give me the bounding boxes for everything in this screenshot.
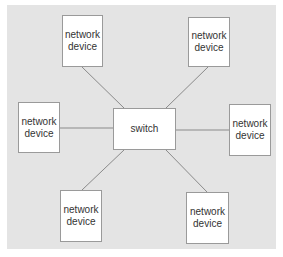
network-device-top-left: network device bbox=[62, 15, 103, 67]
link-bottom-right bbox=[166, 150, 207, 192]
device-label-line2: device bbox=[232, 130, 267, 142]
switch-label: switch bbox=[131, 123, 159, 135]
device-label-line1: network bbox=[232, 118, 267, 130]
device-label-line2: device bbox=[190, 218, 225, 230]
network-device-bottom-left: network device bbox=[60, 190, 102, 242]
switch-node: switch bbox=[113, 108, 176, 150]
device-label-line2: device bbox=[63, 216, 98, 228]
network-device-left: network device bbox=[18, 102, 60, 153]
link-bottom-left bbox=[82, 150, 124, 190]
link-top-left bbox=[82, 67, 124, 108]
device-label-line2: device bbox=[65, 41, 100, 53]
device-label-line2: device bbox=[21, 128, 56, 140]
device-label-line1: network bbox=[65, 29, 100, 41]
device-label-line1: network bbox=[191, 30, 226, 42]
device-label-line1: network bbox=[63, 204, 98, 216]
network-device-bottom-right: network device bbox=[186, 192, 229, 244]
link-top-right bbox=[166, 67, 208, 108]
network-device-right: network device bbox=[229, 104, 271, 156]
network-device-top-right: network device bbox=[188, 17, 230, 67]
device-label-line2: device bbox=[191, 42, 226, 54]
device-label-line1: network bbox=[190, 206, 225, 218]
device-label-line1: network bbox=[21, 116, 56, 128]
